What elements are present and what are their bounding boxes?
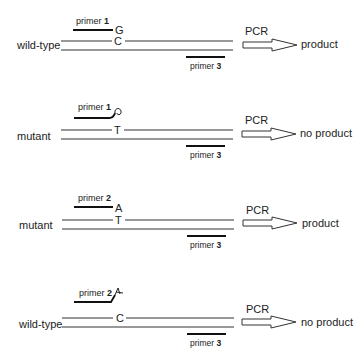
- forward-primer-line: [74, 113, 115, 118]
- pcr-label: PCR: [246, 204, 269, 216]
- mismatch-kink-icon: [115, 288, 123, 295]
- pcr-label: PCR: [245, 114, 268, 126]
- pcr-arrow-icon: [242, 316, 296, 328]
- panel-2: primer 1 mutant T primer 3 PCR no produc…: [17, 102, 352, 160]
- template-base: C: [114, 35, 122, 47]
- sample-label: wild-type: [18, 318, 62, 330]
- reverse-primer-label: primer 3: [190, 61, 221, 71]
- pcr-label: PCR: [246, 303, 269, 315]
- panel-3: primer 2 A mutant T primer 3 PCR product: [19, 193, 339, 250]
- result-label: product: [301, 38, 338, 50]
- pcr-label: PCR: [245, 25, 268, 37]
- panel-4: primer 2 wild-type C primer 3 PCR no pro…: [18, 288, 353, 348]
- primer-label: primer 1: [78, 102, 111, 112]
- pcr-arrow-icon: [242, 128, 296, 140]
- panel-1: primer 1 G wild-type C primer 3 PCR prod…: [16, 16, 338, 71]
- reverse-primer-label: primer 3: [190, 150, 221, 160]
- pcr-diagram: primer 1 G wild-type C primer 3 PCR prod…: [0, 0, 364, 353]
- result-label: no product: [301, 316, 353, 328]
- primer-end-base: A: [115, 202, 123, 214]
- pcr-arrow-icon: [243, 39, 297, 51]
- reverse-primer-label: primer 3: [190, 240, 221, 250]
- template-base: T: [114, 124, 121, 136]
- template-base: C: [116, 312, 124, 324]
- pcr-arrow-icon: [243, 217, 297, 229]
- template-base: T: [115, 214, 122, 226]
- primer-label: primer 2: [78, 193, 111, 203]
- reverse-primer-label: primer 3: [190, 338, 221, 348]
- result-label: no product: [300, 127, 352, 139]
- result-label: product: [302, 217, 339, 229]
- primer-label: primer 1: [76, 16, 109, 26]
- primer-label: primer 2: [79, 288, 112, 298]
- sample-label: mutant: [19, 219, 53, 231]
- sample-label: mutant: [17, 130, 51, 142]
- mismatch-curl-icon: [115, 109, 121, 115]
- sample-label: wild-type: [16, 39, 60, 51]
